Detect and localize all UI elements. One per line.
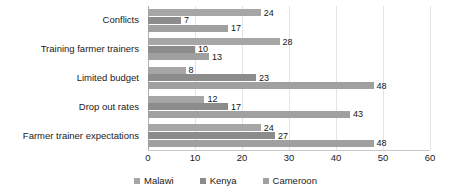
bar-value-label: 17 — [228, 24, 241, 33]
bar-malawi — [148, 67, 186, 74]
bar-row: 27 — [148, 132, 430, 139]
legend-item[interactable]: Cameroon — [263, 176, 317, 186]
bar-group: 82348 — [148, 64, 430, 93]
x-tick-label: 0 — [145, 153, 150, 163]
bar-value-label: 48 — [374, 139, 387, 148]
bar-kenya — [148, 103, 228, 110]
legend-item[interactable]: Kenya — [200, 176, 237, 186]
x-tick-label: 30 — [284, 153, 295, 163]
bar-value-label: 48 — [374, 81, 387, 90]
chart-legend: MalawiKenyaCameroon — [0, 176, 451, 186]
bar-row: 24 — [148, 9, 430, 16]
bar-cameroon — [148, 53, 209, 60]
bar-row: 10 — [148, 46, 430, 53]
legend-item[interactable]: Malawi — [134, 176, 174, 186]
bar-row: 17 — [148, 25, 430, 32]
bar-row: 24 — [148, 124, 430, 131]
category-label: Farmer trainer expectations — [0, 131, 139, 141]
bar-kenya — [148, 46, 195, 53]
bar-cameroon — [148, 140, 374, 147]
bar-cameroon — [148, 111, 350, 118]
category-label: Training farmer trainers — [0, 44, 139, 54]
legend-label: Malawi — [144, 176, 174, 186]
x-tick-label: 60 — [425, 153, 436, 163]
bar-chart: ConflictsTraining farmer trainersLimited… — [0, 0, 451, 196]
x-axis-line — [148, 150, 430, 151]
bar-row: 43 — [148, 111, 430, 118]
bar-row: 12 — [148, 96, 430, 103]
bar-cameroon — [148, 25, 228, 32]
bar-row: 7 — [148, 17, 430, 24]
legend-swatch-icon — [134, 178, 140, 184]
bar-group: 281013 — [148, 35, 430, 64]
x-tick-label: 50 — [378, 153, 389, 163]
bar-value-label: 13 — [209, 52, 222, 61]
category-label: Conflicts — [0, 16, 139, 26]
legend-swatch-icon — [200, 178, 206, 184]
plot-area: 2471728101382348121743242748 — [148, 6, 430, 150]
legend-swatch-icon — [263, 178, 269, 184]
bar-group: 121743 — [148, 92, 430, 121]
y-axis-category-labels: ConflictsTraining farmer trainersLimited… — [0, 6, 144, 150]
bar-kenya — [148, 17, 181, 24]
bar-row: 17 — [148, 103, 430, 110]
bar-value-label: 43 — [350, 110, 363, 119]
category-label: Limited budget — [0, 73, 139, 83]
bar-row: 23 — [148, 74, 430, 81]
bar-malawi — [148, 96, 204, 103]
bar-row: 28 — [148, 38, 430, 45]
legend-label: Cameroon — [273, 176, 317, 186]
bar-row: 48 — [148, 140, 430, 147]
legend-label: Kenya — [210, 176, 237, 186]
bar-kenya — [148, 74, 256, 81]
gridline — [430, 6, 431, 150]
bar-row: 13 — [148, 53, 430, 60]
bar-kenya — [148, 132, 275, 139]
bar-group: 24717 — [148, 6, 430, 35]
bar-row: 8 — [148, 67, 430, 74]
category-label: Drop out rates — [0, 102, 139, 112]
x-tick-label: 40 — [331, 153, 342, 163]
bar-row: 48 — [148, 82, 430, 89]
bar-malawi — [148, 124, 261, 131]
x-tick-label: 10 — [190, 153, 201, 163]
bar-malawi — [148, 9, 261, 16]
x-tick-label: 20 — [237, 153, 248, 163]
bar-cameroon — [148, 82, 374, 89]
bar-malawi — [148, 38, 280, 45]
bar-group: 242748 — [148, 121, 430, 150]
